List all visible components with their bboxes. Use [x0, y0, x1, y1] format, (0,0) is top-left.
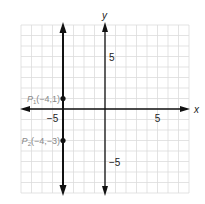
axes	[20, 22, 190, 196]
y-axis-down-arrow-icon	[102, 186, 108, 196]
points: P1(−4,1)P2(−4,−3)	[22, 94, 66, 147]
y-tick-label: −5	[109, 157, 121, 168]
y-tick-label: 5	[109, 52, 115, 63]
point-label-p1: P1(−4,1)	[27, 94, 60, 105]
point-p2	[60, 138, 65, 143]
x-axis-label: x	[193, 104, 200, 115]
x-tick-label: −5	[47, 113, 59, 124]
point-label-p2: P2(−4,−3)	[22, 136, 60, 147]
x-axis-left-arrow-icon	[20, 106, 30, 112]
coordinate-plane: P1(−4,1)P2(−4,−3) xy−555−5	[0, 0, 205, 204]
line-down-arrow-icon	[60, 185, 67, 196]
point-p1	[60, 96, 65, 101]
x-axis-right-arrow-icon	[180, 106, 190, 112]
x-tick-label: 5	[155, 113, 161, 124]
line-up-arrow-icon	[60, 22, 67, 33]
labels: xy−555−5	[47, 10, 200, 168]
y-axis-label: y	[101, 10, 108, 21]
y-axis-up-arrow-icon	[102, 22, 108, 32]
